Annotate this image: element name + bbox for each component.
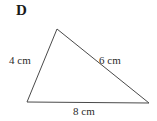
triangle-outline bbox=[27, 29, 149, 103]
side-length-label-left: 4 cm bbox=[9, 54, 31, 67]
side-length-label-right: 6 cm bbox=[99, 54, 121, 67]
geometry-figure: D 4 cm 6 cm 8 cm bbox=[0, 0, 157, 121]
side-length-label-base: 8 cm bbox=[73, 105, 95, 118]
